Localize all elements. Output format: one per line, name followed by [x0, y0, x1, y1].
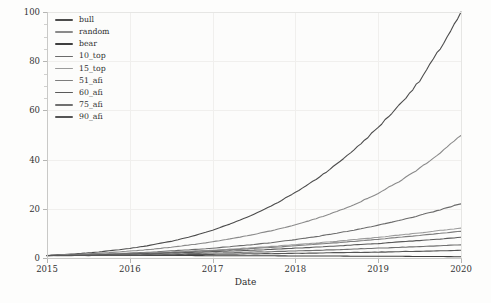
axis-spine-right — [461, 12, 462, 259]
legend-item-51_afi[interactable]: 51_afi — [55, 74, 109, 86]
legend-label: 51_afi — [79, 77, 103, 85]
legend-swatch-75_afi — [55, 104, 73, 106]
legend-item-60_afi[interactable]: 60_afi — [55, 87, 109, 99]
axis-spine-bottom — [47, 258, 462, 259]
chart-legend: bullrandombear10_top15_top51_afi60_afi75… — [55, 14, 109, 123]
chart-figure: 020406080100201520162017201820192020 bul… — [0, 0, 491, 303]
legend-swatch-bear — [55, 43, 73, 45]
legend-item-90_afi[interactable]: 90_afi — [55, 111, 109, 123]
legend-swatch-90_afi — [55, 116, 73, 118]
series-line-bear — [47, 256, 461, 257]
axis-spine-top — [47, 12, 462, 13]
legend-label: 60_afi — [79, 89, 103, 97]
legend-item-bear[interactable]: bear — [55, 38, 109, 50]
legend-swatch-10_top — [55, 56, 73, 58]
legend-swatch-random — [55, 31, 73, 33]
legend-label: 15_top — [79, 65, 106, 73]
legend-swatch-bull — [55, 19, 73, 21]
legend-item-random[interactable]: random — [55, 26, 109, 38]
axis-spine-left — [47, 12, 48, 259]
legend-swatch-60_afi — [55, 92, 73, 94]
x-axis-title: Date — [0, 277, 491, 287]
legend-label: 75_afi — [79, 101, 103, 109]
legend-label: bear — [79, 40, 97, 48]
legend-swatch-15_top — [55, 68, 73, 70]
legend-label: 90_afi — [79, 113, 103, 121]
legend-label: bull — [79, 16, 94, 24]
legend-item-75_afi[interactable]: 75_afi — [55, 99, 109, 111]
legend-item-bull[interactable]: bull — [55, 14, 109, 26]
legend-label: 10_top — [79, 52, 106, 60]
legend-swatch-51_afi — [55, 80, 73, 82]
legend-item-15_top[interactable]: 15_top — [55, 62, 109, 74]
legend-item-10_top[interactable]: 10_top — [55, 50, 109, 62]
legend-label: random — [79, 28, 109, 36]
